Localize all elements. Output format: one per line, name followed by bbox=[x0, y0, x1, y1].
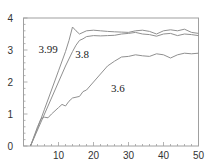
y-tick-label: 3 bbox=[7, 45, 13, 56]
x-tick-label: 20 bbox=[88, 150, 100, 161]
series-label-3.8: 3.8 bbox=[75, 48, 89, 60]
series-labels: 3.993.83.6 bbox=[39, 43, 126, 93]
x-tick-label: 30 bbox=[123, 150, 135, 161]
x-tick-label: 10 bbox=[53, 150, 65, 161]
series-label-3.6: 3.6 bbox=[111, 82, 125, 94]
line-chart: 012341020304050 3.993.83.6 bbox=[0, 0, 211, 163]
y-tick-label: 1 bbox=[7, 109, 13, 120]
series-line-3.6 bbox=[31, 53, 199, 146]
y-tick-label: 4 bbox=[7, 13, 13, 24]
series-label-3.99: 3.99 bbox=[39, 43, 59, 55]
x-tick-label: 50 bbox=[193, 150, 205, 161]
x-tick-label: 40 bbox=[158, 150, 170, 161]
y-tick-label: 2 bbox=[7, 77, 13, 88]
y-tick-label: 0 bbox=[7, 141, 13, 152]
